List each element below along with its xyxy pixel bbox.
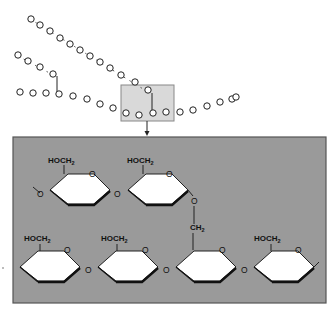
hoch2-label: HOCH2 <box>127 156 154 166</box>
link-oxygen: O <box>85 265 92 275</box>
detail-panel: HOCH2 O O O HOCH2 O O CH2 <box>13 137 326 303</box>
ring-oxygen: O <box>295 245 302 255</box>
ring-oxygen: O <box>89 169 96 179</box>
hoch2-label: HOCH2 <box>48 156 75 166</box>
glycogen-branching-diagram: HOCH2 O O O HOCH2 O O CH2 <box>0 0 336 317</box>
hoch2-label: HOCH2 <box>254 234 281 244</box>
branch-oxygen: O <box>191 196 198 206</box>
short-branch-chain <box>15 52 56 77</box>
stray-mark <box>2 267 4 269</box>
upper-branch-chain <box>28 16 151 93</box>
ring-oxygen: O <box>142 245 149 255</box>
hoch2-label: HOCH2 <box>101 234 128 244</box>
ring-oxygen: O <box>64 245 71 255</box>
arrow-down-icon <box>145 131 150 136</box>
ring-oxygen: O <box>166 169 173 179</box>
link-oxygen: O <box>37 189 44 199</box>
link-oxygen: O <box>241 265 248 275</box>
ring-oxygen: O <box>219 245 226 255</box>
hoch2-label: HOCH2 <box>24 234 51 244</box>
overview-chains <box>15 16 239 136</box>
link-oxygen: O <box>163 265 170 275</box>
link-oxygen: O <box>114 189 121 199</box>
